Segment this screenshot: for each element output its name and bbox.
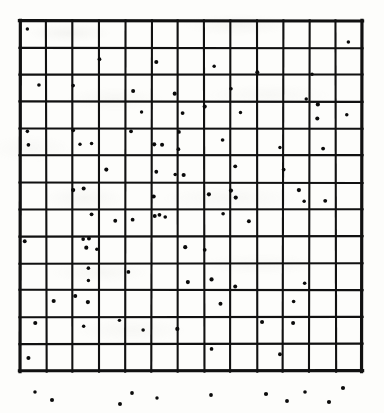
point-event-dot [73,294,77,298]
point-event-dot [82,325,85,328]
point-event-dot [229,189,233,193]
point-event-dot [154,170,158,174]
point-event-dot [345,113,349,117]
point-event-dot [315,116,319,120]
point-event-dot [278,146,281,149]
point-event-dot [127,270,131,274]
point-event-dot [26,356,30,360]
point-events-below-grid [33,386,345,406]
point-event-dot [233,164,237,168]
point-event-dot [347,40,351,44]
point-event-dot [203,105,207,109]
point-event-dot [177,147,181,151]
point-event-dot [90,142,94,146]
point-event-dot [37,83,41,87]
point-event-dot [90,212,94,216]
point-event-dot [141,328,145,332]
grid-line-vertical [46,20,47,371]
figure-container: Quadrat grid with scattered points A 13 … [0,0,384,413]
point-event-dot-below-grid [209,393,213,397]
point-event-dot [305,97,308,100]
point-event-dot [52,299,56,303]
point-event-dot [182,173,186,177]
point-event-dot [323,199,327,203]
point-event-dot [221,212,225,216]
point-event-dot-below-grid [33,390,37,394]
point-event-dot [86,300,90,304]
point-event-dot [87,237,91,241]
point-event-dot [175,327,179,331]
point-event-dot-below-grid [155,396,158,399]
point-event-dot [321,147,325,151]
point-event-dot [310,73,313,76]
point-event-dot [140,110,143,113]
point-event-dot [152,194,156,198]
point-event-dot [153,214,157,218]
point-event-dot [118,319,121,322]
point-event-dot [71,188,75,192]
point-event-dot [163,215,167,219]
quadrat-grid-scatter-plot [0,0,384,413]
point-event-dot [87,266,91,270]
point-event-dot [160,143,164,147]
point-event-dot [23,239,27,243]
grid-line-horizontal [19,236,362,237]
point-event-dot-below-grid [285,399,289,403]
point-event-dot [71,128,75,132]
point-event-dot [297,188,301,192]
point-event-dot [203,248,207,252]
point-event-dot [292,300,296,304]
grid-line-vertical [309,20,310,371]
point-event-dot-below-grid [341,386,345,390]
point-event-dot [210,347,214,351]
grid-line-vertical [204,20,205,371]
point-event-dot [278,352,282,356]
point-event-dot [302,200,305,203]
point-event-dot-below-grid [303,390,307,394]
point-event-dot [234,196,238,200]
point-event-dot [177,130,181,134]
point-event-dot [291,321,295,325]
point-event-dot [316,102,320,106]
point-event-dot-below-grid [327,400,331,404]
grid-line-vertical [283,20,284,371]
point-event-dot [181,111,185,115]
point-event-dot [84,246,88,250]
point-event-dot-below-grid [264,392,268,396]
point-event-dot [209,277,213,281]
point-event-dot [98,57,102,61]
point-event-dot [78,143,81,146]
point-event-dot [104,168,108,172]
point-event-dot [221,138,225,142]
point-event-dot [95,248,98,251]
point-event-dot [81,237,85,241]
point-event-dot [154,60,158,64]
point-event-dot [33,321,37,325]
point-event-dot [26,27,29,30]
point-event-dot [173,173,177,177]
point-event-dot [129,129,133,133]
point-event-dot [27,143,31,147]
point-event-dot [26,130,30,134]
point-event-dot [303,281,307,285]
point-event-dot [282,168,286,172]
point-event-dot [71,84,75,88]
point-event-dot [186,280,190,284]
point-event-dot [113,219,117,223]
grid-line-vertical [335,20,336,371]
point-event-dot [131,218,135,222]
point-event-dot [183,245,187,249]
point-event-dot-below-grid [130,391,134,395]
point-event-dot [87,279,90,282]
point-event-dot [255,70,259,74]
point-event-dot [212,65,215,68]
point-event-dot [152,142,156,146]
point-event-dot-below-grid [118,402,122,406]
point-event-dot [233,284,237,288]
point-event-dot [173,92,177,96]
point-event-dot [218,302,222,306]
point-event-dot [158,213,162,217]
point-event-dot [229,87,233,91]
point-event-dot-below-grid [50,398,54,402]
point-event-dot [82,186,86,190]
